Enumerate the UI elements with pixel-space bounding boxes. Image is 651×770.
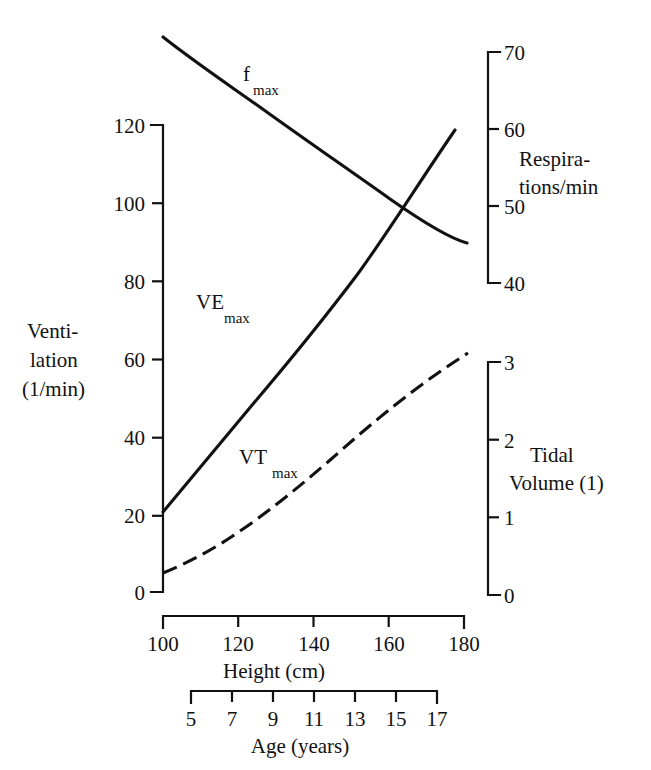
- tidal-volume-axis-title-line2: Volume (1): [509, 471, 604, 495]
- tidal-volume-ticklabel-0: 0: [504, 584, 515, 608]
- age-axis-title: Age (years): [251, 734, 350, 758]
- respirations-axis-title-line2: tions/min: [519, 175, 599, 199]
- tidal-volume-ticklabel-1: 1: [504, 506, 515, 530]
- age-ticklabel-11: 11: [304, 707, 324, 731]
- ventilation-ticklabel-100: 100: [114, 192, 146, 216]
- height-ticklabel-160: 160: [373, 632, 405, 656]
- ventilation-axis-title-line1: Venti-: [27, 319, 78, 343]
- respirations-ticklabel-60: 60: [504, 118, 525, 142]
- age-ticklabel-17: 17: [427, 707, 448, 731]
- height-ticklabel-180: 180: [448, 632, 480, 656]
- ventilation-ticklabel-60: 60: [124, 348, 145, 372]
- ventilation-growth-chart: 120 100 80 60 40 20 0 Venti- lation (1/m…: [0, 0, 651, 770]
- vt-max-label-base: VT: [239, 445, 267, 469]
- ventilation-axis-title-line3: (1/min): [22, 377, 85, 401]
- chart-svg: 120 100 80 60 40 20 0 Venti- lation (1/m…: [0, 0, 651, 770]
- f-max-label-base: f: [243, 62, 250, 86]
- age-ticklabel-7: 7: [227, 707, 238, 731]
- ventilation-ticklabel-120: 120: [114, 114, 146, 138]
- respirations-ticklabel-40: 40: [504, 272, 525, 296]
- height-ticklabel-120: 120: [222, 632, 254, 656]
- ventilation-ticklabel-40: 40: [124, 426, 145, 450]
- respirations-ticklabel-70: 70: [504, 41, 525, 65]
- f-max-label-sub: max: [253, 82, 279, 98]
- ventilation-ticklabel-0: 0: [135, 581, 146, 605]
- age-ticklabel-13: 13: [345, 707, 366, 731]
- tidal-volume-axis-title-line1: Tidal: [530, 443, 574, 467]
- ventilation-ticklabel-80: 80: [124, 270, 145, 294]
- ventilation-axis-title-line2: lation: [30, 348, 78, 372]
- tidal-volume-ticklabel-2: 2: [504, 429, 515, 453]
- vt-max-label-sub: max: [272, 465, 298, 481]
- age-ticklabel-5: 5: [186, 707, 197, 731]
- age-ticklabel-15: 15: [386, 707, 407, 731]
- tidal-volume-ticklabel-3: 3: [504, 351, 515, 375]
- height-axis-title: Height (cm): [223, 659, 325, 683]
- ve-max-label-base: VE: [196, 290, 224, 314]
- height-ticklabel-100: 100: [147, 632, 179, 656]
- respirations-axis-title-line1: Respira-: [519, 147, 590, 171]
- height-ticklabel-140: 140: [298, 632, 330, 656]
- ve-max-label-sub: max: [224, 310, 250, 326]
- ventilation-ticklabel-20: 20: [124, 504, 145, 528]
- age-ticklabel-9: 9: [268, 707, 279, 731]
